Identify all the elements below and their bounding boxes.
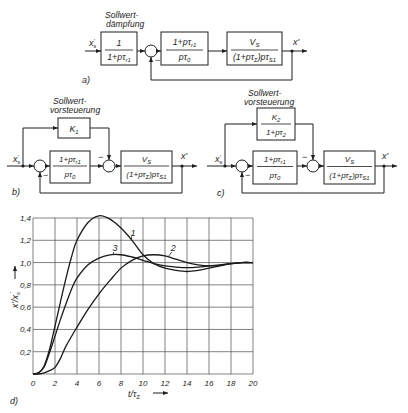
- gain-sub: 1: [75, 129, 78, 135]
- y-tick-label: 0,4: [20, 325, 32, 334]
- x-tick-label: 0: [31, 379, 36, 388]
- panel-a-output-label: x': [292, 37, 300, 47]
- y-axis-label: x'/xs': [9, 291, 21, 309]
- panel-d-label: d): [10, 396, 18, 406]
- den-sub-b: S1: [362, 175, 369, 181]
- panel-a-caption-line2: dämpfung: [106, 19, 144, 29]
- y-tick-label: 0,8: [20, 281, 32, 290]
- panel-b-summing-junction-2: [103, 160, 115, 172]
- input-label-sub: s: [17, 159, 20, 165]
- den-main: 1+pτ: [107, 52, 126, 62]
- panel-c-setpoint-feedforward-lag: Sollwert- vorsteuerung x's K2 1+pτ2 − 1+…: [207, 88, 397, 198]
- figure: Sollwert- dämpfung x's 1 1+pτr1 − 1+pτr1…: [0, 0, 408, 413]
- num-sub: r1: [76, 159, 81, 165]
- ylabel-sub: s: [15, 292, 21, 295]
- den-part-b: )pτ: [257, 52, 270, 62]
- ylabel-main: x'/x: [10, 294, 20, 309]
- panel-a-setpoint-damping: Sollwert- dämpfung x's 1 1+pτr1 − 1+pτr1…: [82, 10, 307, 85]
- x-tick-label: 10: [139, 379, 148, 388]
- den-sub-b: S1: [159, 174, 166, 180]
- input-label-sub: s: [219, 159, 222, 165]
- x-tick-label: 8: [119, 379, 124, 388]
- x-tick-label: 12: [161, 379, 170, 388]
- chart-curve-labels: 123: [112, 228, 175, 256]
- x-tick-label: 2: [52, 379, 58, 388]
- num-main: 1+pτ: [264, 155, 282, 164]
- x-tick-label: 16: [205, 379, 214, 388]
- panel-a-minus-sign: −: [155, 55, 160, 65]
- panel-b-caption-line2: vorsteuerung: [50, 105, 100, 115]
- minus-sign: −: [98, 152, 103, 162]
- panel-b-setpoint-feedforward: Sollwert- vorsteuerung x's K1 − 1+pτr1 p…: [7, 96, 197, 197]
- y-tick-label: 1,4: [20, 214, 32, 223]
- den-part-a: (1+pτ: [126, 170, 146, 179]
- minus-sign: −: [245, 170, 250, 180]
- den-main: 1+pτ: [266, 128, 284, 137]
- panel-b-label: b): [12, 187, 20, 197]
- num-sub: S: [255, 42, 259, 48]
- x-tick-label: 6: [97, 379, 102, 388]
- curve-label-2: 2: [170, 243, 176, 253]
- panel-a-label: a): [82, 75, 90, 85]
- x-tick-label: 14: [183, 379, 192, 388]
- den-part-a: (1+pτ: [329, 171, 349, 180]
- panel-b-input-label: x's: [12, 154, 20, 165]
- y-tick-label: 1,0: [20, 259, 32, 268]
- panel-a-input-label: x's: [88, 38, 96, 49]
- panel-c-input-label: x's: [214, 154, 222, 165]
- ylabel-prime: ': [9, 291, 15, 293]
- den-part-a: (1+pτ: [233, 52, 255, 62]
- xlabel-sub: Σ: [135, 394, 140, 400]
- panel-b-output-label: x': [180, 151, 188, 161]
- y-tick-label: 0,6: [20, 303, 32, 312]
- y-tick-label: 1,2: [20, 236, 32, 245]
- num-main: 1+pτ: [59, 155, 77, 164]
- input-label-sub: s: [93, 43, 96, 49]
- num-sub: r1: [281, 159, 286, 165]
- num-sub: S: [350, 159, 354, 165]
- num-sub: S: [147, 159, 151, 165]
- panel-c-label: c): [217, 188, 225, 198]
- gain-sub: 2: [276, 117, 281, 123]
- num-sub: r1: [191, 42, 196, 48]
- minus-sign: −: [302, 152, 307, 162]
- filter-block-numerator: 1: [117, 38, 122, 48]
- x-tick-label: 4: [75, 379, 80, 388]
- x-tick-label: 18: [227, 379, 236, 388]
- num-main: 1+pτ: [173, 37, 192, 47]
- panel-c-output-label: x': [381, 151, 389, 161]
- y-tick-label: 0,2: [20, 348, 32, 357]
- den-sub: r1: [125, 57, 130, 63]
- panel-c-caption-line2: vorsteuerung: [244, 97, 294, 107]
- panel-c-summing-junction-2: [307, 160, 319, 172]
- den-sub-b: S1: [269, 57, 276, 63]
- x-tick-label: 20: [248, 379, 258, 388]
- minus-sign: −: [43, 170, 48, 180]
- den-sub: 2: [282, 132, 287, 138]
- panel-d-step-response-chart: 024681012141618200,20,40,60,81,01,21,4 1…: [9, 214, 258, 406]
- chart-grid: [33, 218, 253, 374]
- x-axis-label: t/τΣ: [128, 389, 140, 400]
